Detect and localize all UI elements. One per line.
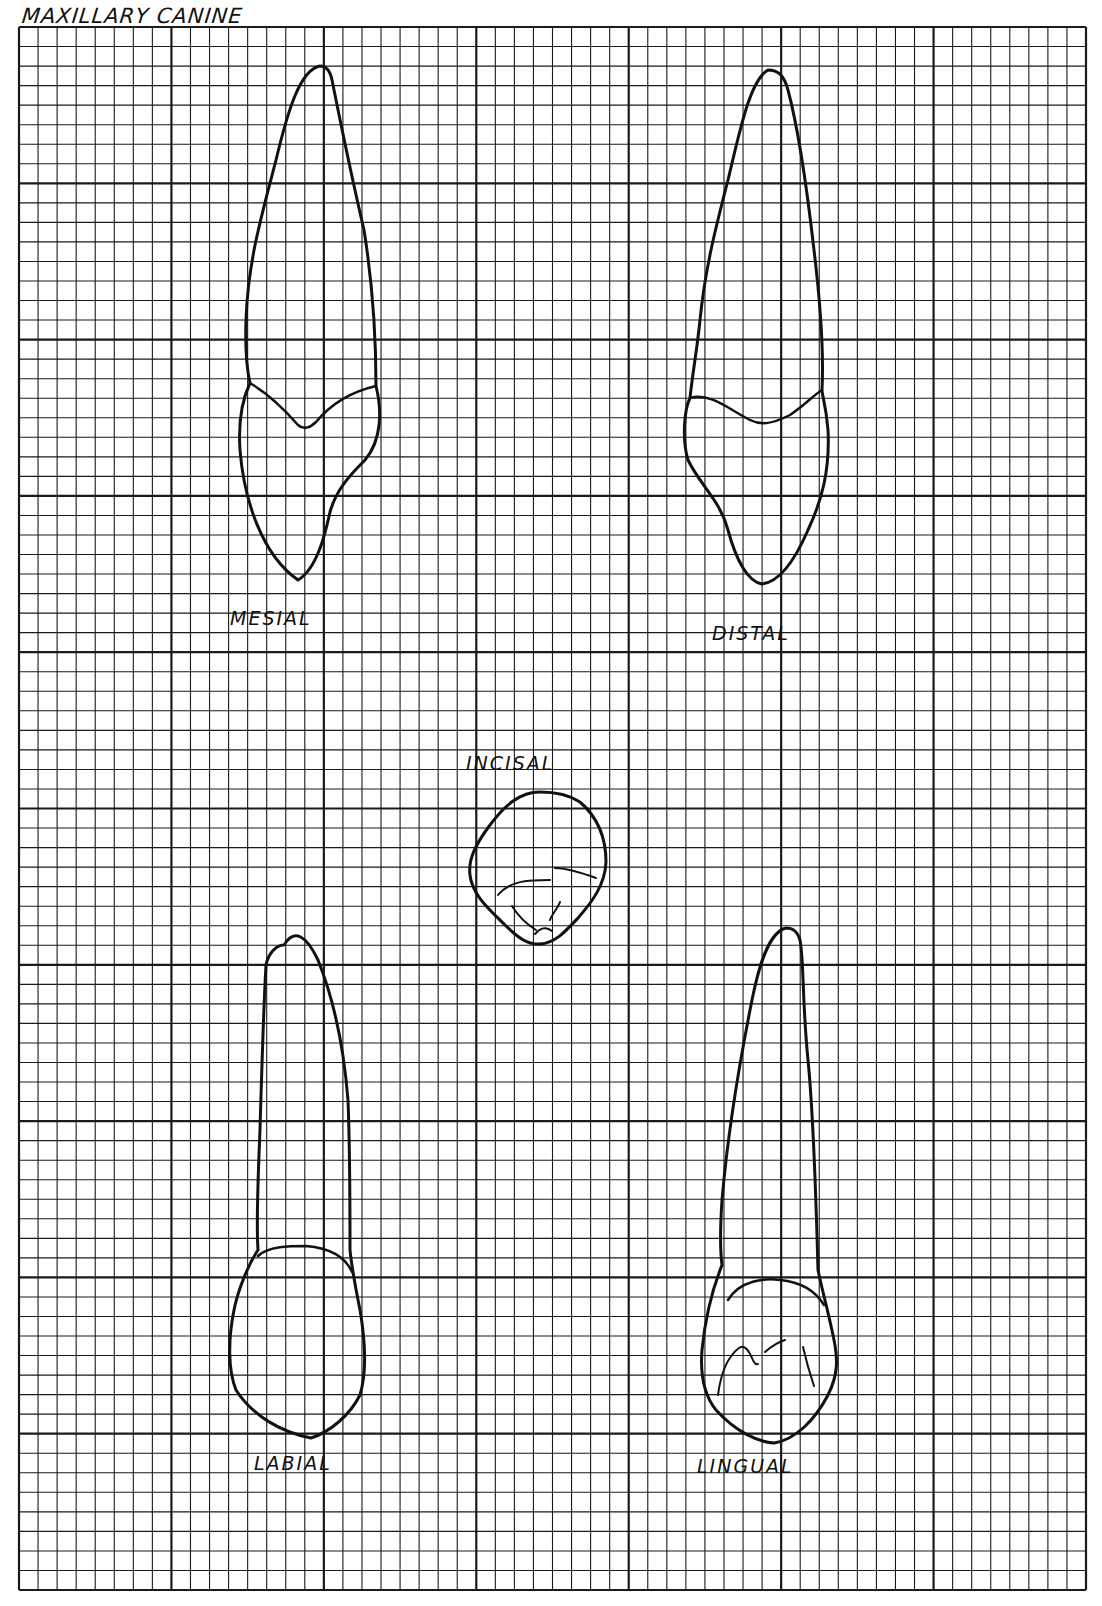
label-distal: DISTAL xyxy=(712,622,790,644)
label-incisal: INCISAL xyxy=(466,752,554,774)
incisal-tooth-outline xyxy=(470,792,606,944)
distal-tooth-outline xyxy=(684,70,828,584)
lingual-tooth-outline xyxy=(702,928,837,1443)
labial-tooth-outline xyxy=(230,936,365,1438)
mesial-tooth-outline xyxy=(239,66,379,580)
label-labial: LABIAL xyxy=(254,1452,332,1474)
label-mesial: MESIAL xyxy=(230,607,312,629)
graph-paper-sheet: MAXILLARY CANINE xyxy=(0,0,1102,1606)
label-lingual: LINGUAL xyxy=(697,1455,794,1477)
tooth-drawings xyxy=(0,0,1102,1606)
